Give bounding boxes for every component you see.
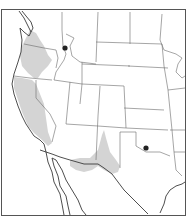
record-marker-oklahoma — [143, 145, 148, 150]
map-canvas — [0, 0, 193, 221]
record-marker-idaho — [62, 45, 67, 50]
range-map — [0, 0, 193, 221]
